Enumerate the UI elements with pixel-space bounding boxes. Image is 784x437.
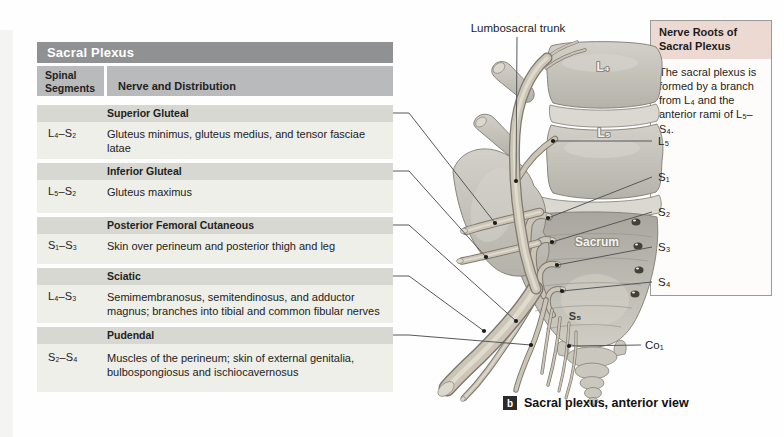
lumbosacral-trunk-label: Lumbosacral trunk xyxy=(471,22,566,34)
section-header: Inferior Gluteal xyxy=(37,163,393,180)
description-cell: Gluteus minimus, gluteus medius, and ten… xyxy=(107,127,393,159)
sacral-foramina xyxy=(631,219,644,298)
intervertebral-disc-l4-l5 xyxy=(549,104,659,127)
l4-vertebra-label: L₄ xyxy=(596,60,609,74)
hip-bone xyxy=(453,60,549,276)
page-edge-shading xyxy=(0,30,13,437)
segment-cell: L₅–S₂ xyxy=(37,185,107,213)
nerve-roots-info-box: Nerve Roots of Sacral Plexus The sacral … xyxy=(650,20,772,296)
col-header-nerve-distribution: Nerve and Distribution xyxy=(107,66,393,96)
caption-marker: b xyxy=(503,396,517,410)
description-cell: Gluteus maximus xyxy=(107,185,393,213)
table-row: L₄–S₂ Gluteus minimus, gluteus medius, a… xyxy=(37,122,393,159)
segment-cell: L₄–S₂ xyxy=(37,127,107,159)
table-row: L₄–S₃ Semimembranosus, semitendinosus, a… xyxy=(37,285,393,323)
s5-label: S₅ xyxy=(569,310,581,322)
coccyx-bone xyxy=(557,340,626,404)
table-title: Sacral Plexus xyxy=(37,42,393,63)
table-row: S₂–S₄ Muscles of the perineum; skin of e… xyxy=(37,344,393,392)
table-section-posterior-femoral-cutaneous: Posterior Femoral Cutaneous S₁–S₃ Skin o… xyxy=(37,217,393,264)
l5-nerve-root xyxy=(519,139,555,177)
info-box-title: Nerve Roots of Sacral Plexus xyxy=(651,21,771,59)
posterior-femoral-cutaneous-nerve xyxy=(460,292,538,402)
vertebra-l4-bone xyxy=(547,42,662,109)
caption-text: Sacral plexus, anterior view xyxy=(524,396,689,410)
co1-label: Co₁ xyxy=(645,339,664,351)
sacral-plexus-table: Sacral Plexus Spinal Segments Nerve and … xyxy=(37,42,393,392)
figure-caption: b Sacral plexus, anterior view xyxy=(503,396,689,410)
sciatic-nerve xyxy=(435,289,535,399)
table-column-headers: Spinal Segments Nerve and Distribution xyxy=(37,66,393,96)
segment-cell: S₂–S₄ xyxy=(37,351,107,392)
lumbosacral-trunk-nerve xyxy=(514,42,585,289)
description-cell: Muscles of the perineum; skin of externa… xyxy=(107,351,393,392)
table-section-inferior-gluteal: Inferior Gluteal L₅–S₂ Gluteus maximus xyxy=(37,163,393,213)
table-row: L₅–S₂ Gluteus maximus xyxy=(37,180,393,213)
figure-canvas: Sacral Plexus Spinal Segments Nerve and … xyxy=(0,0,784,437)
description-cell: Skin over perineum and posterior thigh a… xyxy=(107,239,393,264)
segment-cell: S₁–S₃ xyxy=(37,239,107,264)
table-row: S₁–S₃ Skin over perineum and posterior t… xyxy=(37,234,393,264)
info-box-body: The sacral plexus is formed by a branch … xyxy=(651,59,771,136)
sacral-nerve-roots xyxy=(528,212,567,315)
sacrum-label: Sacrum xyxy=(575,235,619,249)
segment-cell: L₄–S₃ xyxy=(37,290,107,323)
inferior-gluteal-nerve xyxy=(456,243,538,264)
table-section-superior-gluteal: Superior Gluteal L₄–S₂ Gluteus minimus, … xyxy=(37,105,393,159)
sacrum-bone xyxy=(503,212,658,348)
coccygeal-nerve-strands xyxy=(542,310,576,398)
intervertebral-disc-l5-s1 xyxy=(540,195,661,219)
section-header: Superior Gluteal xyxy=(37,105,393,122)
vertebra-l5-bone xyxy=(547,124,663,199)
description-cell: Semimembranosus, semitendinosus, and add… xyxy=(107,290,393,323)
section-header: Sciatic xyxy=(37,268,393,285)
section-header: Posterior Femoral Cutaneous xyxy=(37,217,393,234)
col-header-spinal-segments: Spinal Segments xyxy=(37,66,104,96)
table-section-sciatic: Sciatic L₄–S₃ Semimembranosus, semitendi… xyxy=(37,268,393,323)
table-section-pudendal: Pudendal S₂–S₄ Muscles of the perineum; … xyxy=(37,327,393,392)
l5-vertebra-label: L₅ xyxy=(598,126,611,140)
leader-lines xyxy=(393,37,652,348)
section-header: Pudendal xyxy=(37,327,393,344)
pudendal-nerve xyxy=(516,300,546,390)
superior-gluteal-nerve xyxy=(460,212,540,234)
